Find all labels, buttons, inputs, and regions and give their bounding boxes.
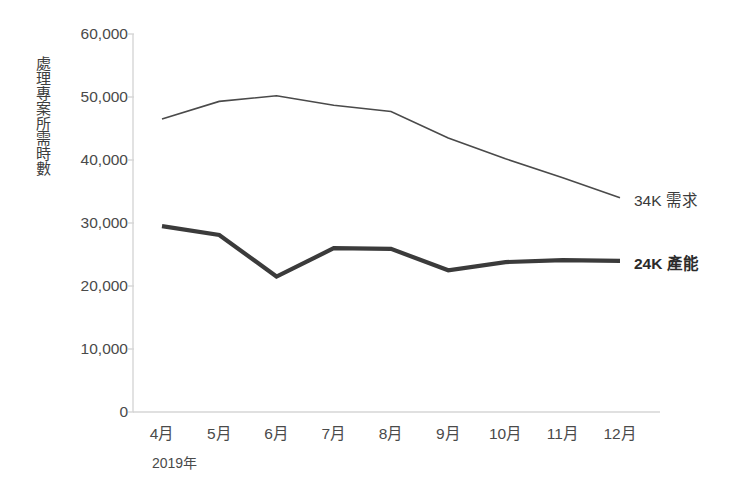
x-axis-tick-label: 5月 — [207, 421, 232, 443]
series-lines — [162, 96, 620, 277]
axis-lines — [133, 34, 660, 412]
series-end-label-capacity: 24K 產能 — [634, 251, 699, 273]
series-line-capacity — [162, 226, 620, 276]
x-axis-tick-label: 10月 — [489, 421, 522, 443]
x-axis-tick-label: 7月 — [321, 421, 346, 443]
x-axis-tick-label: 12月 — [603, 421, 636, 443]
x-axis-year-label: 2019年 — [152, 452, 197, 472]
x-axis-tick-label: 6月 — [264, 421, 289, 443]
x-axis-tick-label: 4月 — [150, 421, 175, 443]
series-end-label-demand: 34K 需求 — [634, 188, 698, 210]
x-axis-tick-label: 11月 — [547, 421, 579, 443]
x-axis-tick-label: 8月 — [379, 421, 404, 443]
line-chart: 處理專案所需時數 60,00050,00040,00030,00020,0001… — [0, 0, 735, 499]
series-line-demand — [162, 96, 620, 198]
x-axis-tick-label: 9月 — [436, 421, 461, 443]
